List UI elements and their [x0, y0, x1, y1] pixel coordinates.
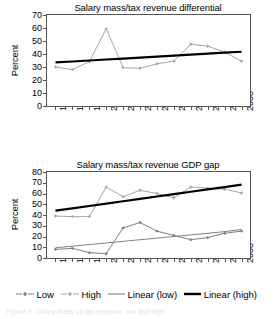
y-tick-label: 70	[18, 178, 42, 187]
y-tick-label: 0	[18, 254, 42, 263]
x-tick-mark	[208, 259, 209, 262]
series-marker	[105, 27, 108, 30]
x-tick-mark	[123, 259, 124, 262]
x-tick-mark	[225, 259, 226, 262]
series-line	[55, 187, 241, 217]
legend-item[interactable]: Linear (low)	[108, 289, 177, 300]
series-marker	[138, 221, 141, 224]
y-tick-label: 60	[18, 189, 42, 198]
y-tick-label: 70	[18, 11, 42, 20]
y-tick-label: 40	[18, 211, 42, 220]
x-tick-mark	[72, 259, 73, 262]
x-tick-mark	[123, 107, 124, 110]
plot-area-gdp-gap	[46, 171, 251, 259]
y-tick-label: 50	[18, 200, 42, 209]
y-tick-label: 50	[18, 37, 42, 46]
y-tick-label: 0	[18, 102, 42, 111]
legend-label: Linear (high)	[204, 289, 257, 300]
x-tick-mark	[191, 259, 192, 262]
y-tick-label: 10	[18, 89, 42, 98]
legend-swatch-thick-line-icon	[184, 290, 201, 298]
x-tick-mark	[55, 107, 56, 110]
y-tick-label: 10	[18, 243, 42, 252]
chart-panel-gdp-gap: Salary mass/tax revenue GDP gap Percent …	[0, 157, 273, 282]
legend-item[interactable]: Linear (high)	[184, 289, 257, 300]
x-tick-mark	[225, 107, 226, 110]
series-marker	[71, 68, 74, 71]
legend-swatch-line-with-marker-icon	[61, 290, 79, 298]
x-tick-mark	[55, 259, 56, 262]
series-marker	[138, 67, 141, 70]
y-tick-label: 20	[18, 232, 42, 241]
series-line	[55, 52, 241, 63]
series-marker	[54, 248, 57, 251]
y-tick-label: 60	[18, 24, 42, 33]
x-tick-mark	[157, 259, 158, 262]
x-tick-mark	[89, 107, 90, 110]
series-marker	[155, 62, 158, 65]
chart-title-differential: Salary mass/tax revenue differential	[40, 2, 256, 13]
x-tick-mark	[106, 259, 107, 262]
x-tick-mark	[242, 107, 243, 110]
y-tick-label: 20	[18, 76, 42, 85]
series-marker	[121, 66, 124, 69]
legend-label: Linear (low)	[128, 289, 178, 300]
x-tick-mark	[242, 259, 243, 262]
plot-lines-differential	[47, 15, 250, 106]
y-tick-label: 30	[18, 63, 42, 72]
series-marker	[54, 65, 57, 68]
legend-swatch-line-with-marker-icon	[16, 290, 34, 298]
legend-swatch-thin-line-icon	[108, 290, 125, 298]
x-tick-mark	[208, 107, 209, 110]
chart-title-gdp-gap: Salary mass/tax revenue GDP gap	[40, 159, 256, 170]
y-tick-label: 80	[18, 168, 42, 177]
x-tick-mark	[140, 259, 141, 262]
x-tick-mark	[89, 259, 90, 262]
series-marker	[240, 191, 243, 194]
legend-item[interactable]: High	[61, 289, 101, 300]
series-line	[55, 223, 241, 254]
y-tick-label: 30	[18, 221, 42, 230]
series-marker	[155, 192, 158, 195]
series-marker	[54, 214, 57, 217]
plot-area-differential	[46, 14, 251, 107]
series-line	[55, 230, 241, 248]
series-line	[55, 185, 241, 211]
figure-two-line-charts: Salary mass/tax revenue differential Per…	[0, 0, 273, 319]
y-tick-label: 40	[18, 50, 42, 59]
series-marker	[206, 236, 209, 239]
x-tick-mark	[174, 259, 175, 262]
series-marker	[138, 189, 141, 192]
plot-lines-gdp-gap	[47, 172, 250, 258]
legend-item[interactable]: Low	[16, 289, 54, 300]
legend-label: Low	[37, 289, 54, 300]
figure-caption: Figure 3. Salary mass vs tax revenue, lo…	[6, 307, 268, 316]
series-marker	[189, 238, 192, 241]
legend-label: High	[81, 289, 101, 300]
series-marker	[71, 247, 74, 250]
x-tick-mark	[72, 107, 73, 110]
x-tick-mark	[191, 107, 192, 110]
series-marker	[71, 215, 74, 218]
series-line	[55, 29, 241, 70]
x-tick-mark	[174, 107, 175, 110]
x-tick-mark	[157, 107, 158, 110]
chart-panel-differential: Salary mass/tax revenue differential Per…	[0, 0, 273, 155]
series-marker	[88, 251, 91, 254]
x-tick-mark	[140, 107, 141, 110]
x-tick-mark	[106, 107, 107, 110]
series-marker	[155, 229, 158, 232]
series-marker	[206, 45, 209, 48]
chart-legend: LowHighLinear (low)Linear (high)	[0, 286, 273, 302]
